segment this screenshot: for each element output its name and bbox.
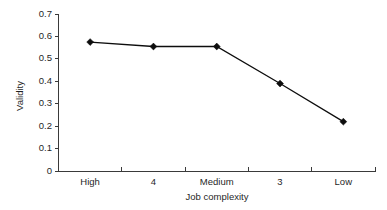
data-point-marker: [277, 80, 284, 87]
y-tick-label-0.2: 0.2: [39, 120, 52, 131]
x-tick-label-4: 4: [151, 176, 156, 187]
x-axis-title: Job complexity: [186, 191, 249, 202]
data-point-marker: [87, 39, 94, 46]
data-point-marker: [340, 118, 347, 125]
y-axis-ticks: [55, 14, 59, 171]
y-tick-label-0.5: 0.5: [39, 52, 52, 63]
x-axis-ticks: [59, 167, 376, 172]
y-tick-label-0.1: 0.1: [39, 142, 52, 153]
y-tick-label-0: 0: [47, 165, 52, 176]
x-tick-label-medium: Medium: [200, 176, 234, 187]
data-point-marker: [150, 43, 157, 50]
y-tick-label-0.6: 0.6: [39, 30, 52, 41]
y-tick-label-0.3: 0.3: [39, 97, 52, 108]
x-tick-label-low: Low: [335, 176, 353, 187]
y-axis-title: Validity: [14, 81, 25, 111]
data-markers: [87, 39, 347, 125]
data-point-marker: [213, 43, 220, 50]
x-tick-label-high: High: [80, 176, 100, 187]
chart-figure: Validity 0.7 0.6 0.5 0.4 0.3 0.2 0.1 0: [0, 0, 387, 210]
x-tick-label-3: 3: [277, 176, 282, 187]
y-tick-label-0.7: 0.7: [39, 8, 52, 19]
line-chart: Validity 0.7 0.6 0.5 0.4 0.3 0.2 0.1 0: [0, 0, 387, 210]
data-series-line: [90, 42, 343, 122]
y-tick-label-0.4: 0.4: [39, 75, 52, 86]
